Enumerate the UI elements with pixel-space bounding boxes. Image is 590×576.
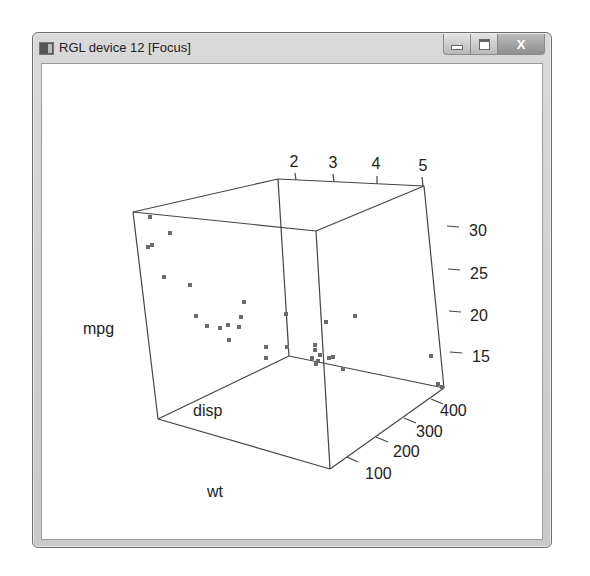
close-icon: X [517, 37, 526, 52]
axis-titles: mpg disp wt [83, 320, 224, 500]
minimize-icon [451, 45, 463, 50]
mpg-axis-labels: 30 25 20 15 [469, 222, 490, 365]
close-button[interactable]: X [498, 34, 545, 55]
disp-tick-label: 100 [365, 465, 392, 482]
wt-tick-label: 3 [329, 154, 338, 171]
axis-title-wt: wt [206, 483, 224, 500]
wt-tick-label: 4 [372, 155, 381, 172]
maximize-icon [479, 39, 490, 50]
disp-tick-label: 400 [440, 402, 467, 419]
mpg-tick-label: 15 [472, 348, 490, 365]
maximize-button[interactable] [471, 34, 498, 55]
app-icon [39, 42, 54, 55]
disp-tick-label: 300 [416, 423, 443, 440]
wt-tick-label: 5 [419, 157, 428, 174]
wt-axis-ticks [295, 173, 423, 186]
mpg-tick-label: 30 [469, 222, 487, 239]
title-bar[interactable]: RGL device 12 [Focus] X [33, 33, 551, 63]
disp-axis-labels: 100 200 300 400 [365, 402, 467, 482]
wt-tick-label: 2 [290, 153, 299, 170]
mpg-axis-ticks [447, 226, 462, 353]
plot-canvas[interactable]: 2 3 4 5 30 25 20 15 [41, 63, 543, 540]
rgl-window: RGL device 12 [Focus] X [32, 32, 552, 548]
axis-title-mpg: mpg [83, 320, 114, 337]
window-title: RGL device 12 [Focus] [59, 40, 191, 55]
bounding-box [133, 179, 444, 469]
scatter3d-plot[interactable]: 2 3 4 5 30 25 20 15 [42, 64, 542, 539]
axis-title-disp: disp [193, 402, 222, 419]
mpg-tick-label: 20 [470, 307, 488, 324]
data-points [146, 215, 444, 389]
minimize-button[interactable] [443, 34, 471, 55]
wt-axis-labels: 2 3 4 5 [290, 153, 428, 174]
window-controls: X [443, 34, 545, 54]
disp-tick-label: 200 [393, 443, 420, 460]
mpg-tick-label: 25 [470, 265, 488, 282]
